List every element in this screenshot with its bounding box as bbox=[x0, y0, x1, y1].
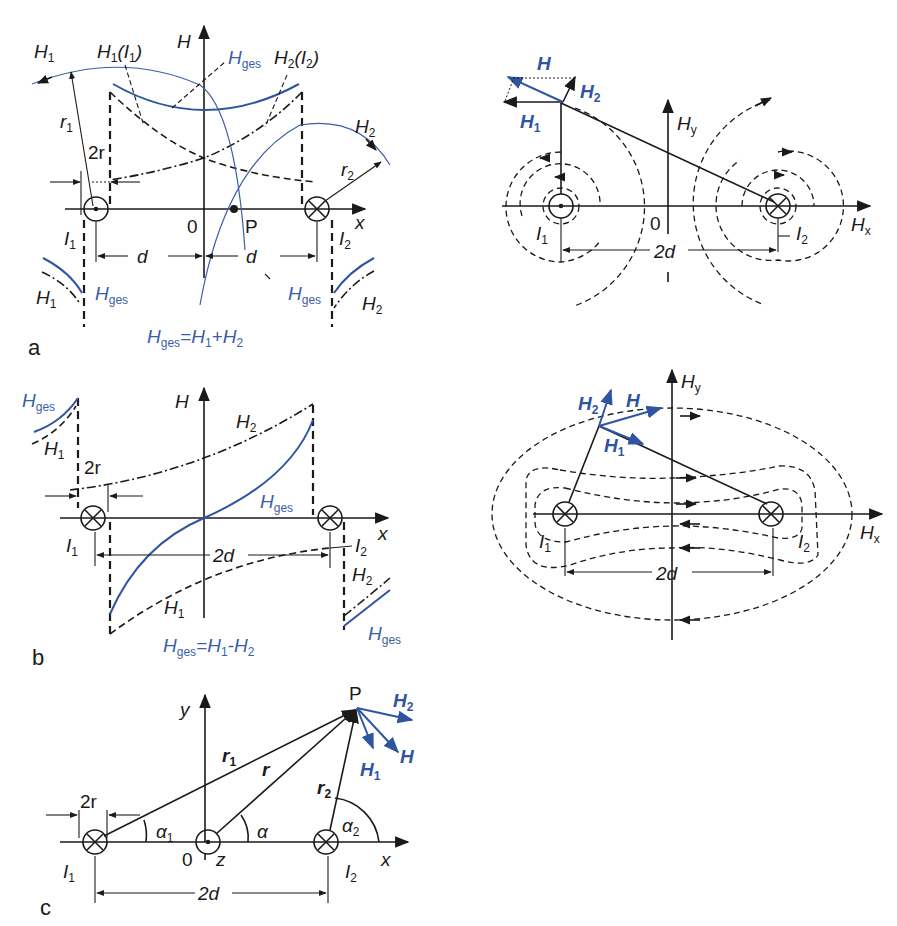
label-2d-fl: 2d bbox=[655, 563, 679, 584]
label-2r-c: 2r bbox=[80, 791, 98, 812]
label-h2-right: H2 bbox=[355, 116, 376, 140]
label-h-axis: H bbox=[177, 31, 191, 52]
label-origin: 0 bbox=[187, 216, 198, 237]
h1-curve bbox=[110, 92, 315, 182]
label-h1-top: H1 bbox=[34, 41, 55, 65]
vector-h1-c bbox=[357, 708, 373, 748]
label-x-b: x bbox=[377, 523, 389, 544]
label-i1: I1 bbox=[64, 228, 76, 252]
panel-label-b: b bbox=[32, 645, 44, 670]
formula-b: Hges=H1-H2 bbox=[163, 635, 255, 659]
label-hges-lower-right: Hges bbox=[288, 283, 321, 307]
label-hges-top: Hges bbox=[228, 47, 261, 71]
label-z-c: z bbox=[215, 849, 226, 870]
vector-r1 bbox=[104, 710, 355, 836]
label-vector-h1: H1 bbox=[520, 111, 541, 135]
label-i2-c: I2 bbox=[345, 861, 357, 885]
label-i2-right: I2 bbox=[796, 223, 808, 247]
label-h2-b-right: H2 bbox=[352, 564, 373, 588]
label-hx: Hx bbox=[851, 214, 871, 238]
label-p-c: P bbox=[349, 683, 362, 704]
label-i2-b: I2 bbox=[355, 535, 367, 559]
label-2d-right: 2d bbox=[653, 241, 677, 262]
label-d-right: d bbox=[246, 246, 258, 267]
point-p bbox=[230, 205, 238, 213]
label-h1-i1: H1(I1) bbox=[97, 41, 142, 65]
label-h1-b: H1 bbox=[164, 597, 185, 621]
label-hx-b: Hx bbox=[860, 522, 880, 546]
label-vector-h2-b: H2 bbox=[578, 393, 599, 417]
angle-alpha1-arc bbox=[144, 820, 146, 842]
label-vector-h-b: H bbox=[626, 390, 641, 411]
label-h2-i2: H2(I2) bbox=[274, 47, 319, 71]
panel-label-a: a bbox=[28, 335, 41, 360]
label-i1-c: I1 bbox=[63, 861, 75, 885]
label-alpha2: α2 bbox=[342, 815, 360, 839]
label-r1: r1 bbox=[60, 111, 73, 135]
label-vector-h1-b: H1 bbox=[604, 435, 625, 459]
label-x-axis: x bbox=[354, 212, 366, 233]
formula-a: Hges=H1+H2 bbox=[147, 326, 243, 350]
label-hges-lower-left: Hges bbox=[95, 283, 128, 307]
label-alpha: α bbox=[257, 821, 269, 842]
label-2d-c: 2d bbox=[197, 883, 221, 904]
panel-c-geometry: y P H2 H H1 r1 r r2 2r α1 α α2 0 z x I1 … bbox=[40, 683, 415, 920]
label-h2-b: H2 bbox=[236, 411, 257, 435]
label-i1-b: I1 bbox=[66, 535, 78, 559]
panel-a-field-lines: H H2 H1 Hy Hx 0 I1 I2 2d bbox=[502, 53, 871, 306]
label-y-c: y bbox=[178, 699, 191, 720]
label-r2: r2 bbox=[341, 159, 354, 183]
field-circle-h1 bbox=[32, 67, 245, 250]
panel-b-field-plot: Hges H1 2r H H2 Hges x I1 I2 2d H2 H1 Hg… bbox=[22, 388, 401, 670]
vector-h bbox=[508, 77, 563, 102]
label-i1-fl: I1 bbox=[539, 531, 551, 555]
label-p: P bbox=[245, 216, 258, 237]
h2-curve bbox=[110, 92, 302, 180]
label-i2: I2 bbox=[339, 228, 351, 252]
label-hges-b-left: Hges bbox=[22, 390, 55, 414]
label-x-c: x bbox=[380, 849, 392, 870]
label-d-left: d bbox=[137, 246, 149, 267]
radius-r1 bbox=[71, 72, 93, 206]
label-2r: 2r bbox=[88, 142, 106, 163]
current-out-dot-icon bbox=[94, 207, 99, 212]
label-origin-right: 0 bbox=[650, 213, 661, 234]
label-i1-right: I1 bbox=[536, 223, 548, 247]
vector-h2-b bbox=[599, 390, 611, 426]
label-hges-b: Hges bbox=[260, 491, 293, 515]
hges-curve bbox=[113, 84, 299, 110]
label-r1-c: r1 bbox=[222, 745, 236, 769]
label-vector-h2: H2 bbox=[580, 81, 601, 105]
label-h2-lower: H2 bbox=[362, 293, 383, 317]
panel-b-field-lines: H2 H H1 Hy Hx I1 I2 2d bbox=[492, 370, 882, 640]
label-vector-h: H bbox=[537, 53, 552, 74]
label-hges-b-right: Hges bbox=[368, 623, 401, 647]
panel-label-c: c bbox=[40, 895, 51, 920]
label-h1-b-left: H1 bbox=[44, 438, 65, 462]
h2-curve-b bbox=[70, 404, 313, 490]
panel-a-field-plot: H1 H1(I1) H Hges H2(I2) H2 r1 r2 2r 0 P … bbox=[28, 26, 390, 360]
label-h-axis-b: H bbox=[175, 391, 189, 412]
label-i2-fl: I2 bbox=[798, 531, 810, 555]
label-alpha1: α1 bbox=[156, 821, 174, 845]
label-origin-c: 0 bbox=[182, 849, 193, 870]
label-r-c: r bbox=[262, 759, 271, 780]
vector-r bbox=[216, 710, 355, 834]
hges-curve-b bbox=[110, 420, 313, 614]
label-h1-lower: H1 bbox=[36, 287, 57, 311]
vector-h2 bbox=[563, 77, 575, 102]
label-r2-c: r2 bbox=[317, 777, 331, 801]
label-vector-h-c: H bbox=[400, 746, 415, 767]
label-2r-b: 2r bbox=[84, 457, 102, 478]
label-hy-b: Hy bbox=[681, 371, 701, 395]
label-vector-h2-c: H2 bbox=[393, 690, 414, 714]
label-hy: Hy bbox=[677, 113, 697, 137]
diagram-canvas: H1 H1(I1) H Hges H2(I2) H2 r1 r2 2r 0 P … bbox=[0, 0, 897, 926]
label-2d-b: 2d bbox=[212, 545, 236, 566]
angle-alpha-arc bbox=[241, 815, 248, 842]
label-vector-h1-c: H1 bbox=[360, 759, 381, 783]
